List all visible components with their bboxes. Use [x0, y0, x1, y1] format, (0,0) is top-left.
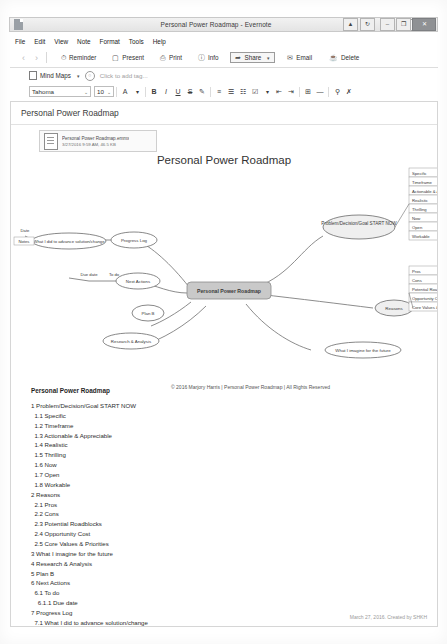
share-icon: ➦ — [235, 54, 241, 61]
attachment-filename: Personal Power Roadmap.emmx — [62, 136, 129, 141]
indent-decrease-button[interactable]: ⇤ — [273, 86, 285, 98]
outline-line: 2.2 Cons — [31, 509, 423, 519]
indent-increase-button[interactable]: ⇥ — [285, 86, 297, 98]
attachment-text: Personal Power Roadmap.emmx 3/27/2016 9:… — [62, 136, 129, 147]
child-thrilling: Thrilling — [412, 207, 427, 212]
child-open: Open — [412, 225, 423, 230]
menu-item-edit[interactable]: Edit — [34, 38, 45, 45]
close-button[interactable]: ✕ — [412, 18, 436, 31]
outline-line: 6 Next Actions — [31, 578, 423, 588]
text-color-button[interactable]: A — [119, 86, 131, 98]
attach-button[interactable]: ⚲ — [331, 86, 343, 98]
child-cons: Cons — [412, 278, 422, 283]
font-size-select[interactable]: 10 ⌄ — [94, 86, 114, 97]
node-due-date-label: Due date — [81, 272, 99, 277]
node-future-label: What I imagine for the future — [335, 348, 391, 353]
menu-item-tools[interactable]: Tools — [129, 38, 144, 45]
attachment-chip[interactable]: Personal Power Roadmap.emmx 3/27/2016 9:… — [39, 130, 157, 152]
font-size-value: 10 — [97, 88, 104, 95]
reasons-children-group: Pros Cons Potential Roadblocks Opportuni… — [409, 266, 437, 311]
share-button[interactable]: ➦ Share ▾ — [230, 52, 275, 63]
delete-button[interactable]: ☕ Delete — [324, 52, 364, 63]
print-label: Print — [169, 54, 182, 61]
child-actionable: Actionable & Appreciable — [412, 189, 437, 194]
share-caret-icon[interactable]: ▾ — [267, 55, 270, 61]
back-button[interactable]: ‹ — [17, 53, 30, 63]
reminder-button[interactable]: ⏱ Reminder — [56, 52, 101, 63]
delete-label: Delete — [341, 54, 359, 61]
title-separator — [11, 124, 437, 125]
maximize-button[interactable]: ❐ — [396, 18, 411, 31]
outline-line: 1.1 Specific — [31, 411, 423, 421]
menu-item-file[interactable]: File — [15, 38, 25, 45]
node-progress-log-label: Progress Log — [121, 238, 148, 243]
scroll-up-button[interactable]: ▲ — [343, 18, 358, 31]
highlight-button[interactable]: ✎ — [196, 86, 208, 98]
menu-item-format[interactable]: Format — [100, 38, 120, 45]
note-title[interactable]: Personal Power Roadmap — [21, 108, 119, 118]
node-notes-label: Notes — [19, 239, 30, 244]
outline-section: Personal Power Roadmap 1 Problem/Decisio… — [31, 387, 423, 627]
node-next-actions-label: Next Actions — [126, 279, 151, 284]
info-button[interactable]: ⓘ Info — [193, 52, 224, 63]
tag-icon[interactable]: ○ — [85, 71, 95, 81]
outline-line: 1 Problem/Decision/Goal START NOW — [31, 401, 423, 411]
format-divider — [328, 87, 329, 97]
child-realistic: Realistic — [412, 198, 428, 203]
horizontal-rule-button[interactable]: — — [314, 86, 326, 98]
outline-line: 1.2 Timeframe — [31, 421, 423, 431]
checkbox-caret-button[interactable]: ▾ — [261, 86, 273, 98]
child-now: Now — [412, 216, 421, 221]
child-timeframe: Timeframe — [412, 180, 433, 185]
format-divider — [299, 87, 300, 97]
color-caret-button[interactable]: ▾ — [131, 86, 143, 98]
document-footer: March 27, 2016. Created by SHKH — [350, 614, 427, 620]
outline-line: 3 What I imagine for the future — [31, 549, 423, 559]
node-problem[interactable] — [323, 215, 395, 239]
checkbox-button[interactable]: ☑ — [249, 86, 261, 98]
node-plan-b-label: Plan B — [142, 311, 155, 316]
reminder-label: Reminder — [69, 54, 96, 61]
format-divider — [116, 87, 117, 97]
strikethrough-button[interactable]: S — [184, 86, 196, 98]
forward-button[interactable]: › — [30, 53, 43, 63]
note-app-icon — [14, 19, 23, 30]
trash-icon: ☕ — [329, 54, 338, 61]
mindmap-svg: Problem/Decision/Goal START NOW Specific… — [11, 154, 437, 382]
menu-item-help[interactable]: Help — [153, 38, 166, 45]
toolbar-separator — [10, 67, 438, 68]
font-family-select[interactable]: Tahoma ⌄ — [29, 86, 91, 97]
evernote-window: Personal Power Roadmap - Evernote ◉ ❐ ▲ … — [0, 0, 447, 644]
chevron-down-icon: ⌄ — [84, 89, 88, 95]
minimize-button[interactable]: – — [380, 18, 395, 31]
print-button[interactable]: ⎙ Print — [155, 52, 187, 63]
format-divider — [145, 87, 146, 97]
present-button[interactable]: ▢ Present — [107, 52, 149, 63]
numbered-list-button[interactable]: ☷ — [237, 86, 249, 98]
bold-button[interactable]: B — [148, 86, 160, 98]
menu-item-view[interactable]: View — [54, 38, 68, 45]
align-left-button[interactable]: ≡ — [213, 86, 225, 98]
sync-button[interactable]: ↻ — [360, 18, 375, 31]
clear-format-button[interactable]: ✗ — [343, 86, 355, 98]
share-label: Share — [244, 54, 261, 61]
bullet-list-button[interactable]: ☰ — [225, 86, 237, 98]
italic-button[interactable]: I — [160, 86, 172, 98]
node-research-label: Research & Analysis — [111, 339, 152, 344]
tag-input[interactable]: Click to add tag... — [100, 72, 148, 79]
envelope-icon: ✉ — [287, 54, 293, 61]
menu-item-note[interactable]: Note — [77, 38, 91, 45]
chevron-down-icon: ⌄ — [107, 89, 111, 95]
email-label: Email — [296, 54, 312, 61]
notebook-selector[interactable]: Mind Maps ▾ — [29, 71, 80, 80]
underline-button[interactable]: U — [172, 86, 184, 98]
email-button[interactable]: ✉ Email — [282, 52, 317, 63]
table-button[interactable]: ⊞ — [302, 86, 314, 98]
outline-line: 1.3 Actionable & Appreciable — [31, 431, 423, 441]
outline-line: 2 Reasons — [31, 490, 423, 500]
present-screen-icon: ▢ — [112, 54, 119, 61]
outline-line: 2.3 Potential Roadblocks — [31, 519, 423, 529]
notebook-icon — [29, 71, 37, 80]
node-to-do-label: To do — [109, 272, 120, 277]
printer-icon: ⎙ — [160, 54, 166, 61]
